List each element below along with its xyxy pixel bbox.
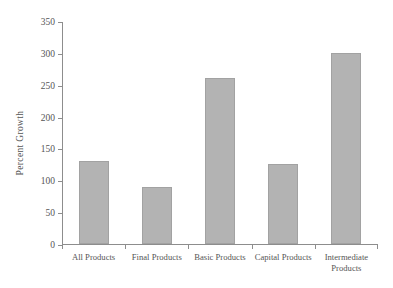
x-axis-tick: [377, 245, 378, 249]
y-axis-tick-label: 350: [41, 17, 55, 27]
plot-area: 050100150200250300350 All ProductsFinal …: [62, 22, 378, 245]
y-axis-tick: [58, 213, 62, 214]
x-axis-tick: [252, 245, 253, 249]
bar: [205, 78, 235, 244]
bar: [79, 161, 109, 244]
x-axis-label: All Products: [58, 252, 130, 263]
x-axis-line: [62, 244, 378, 245]
x-axis-tick: [62, 245, 63, 249]
bar: [268, 164, 298, 244]
x-axis-tick: [188, 245, 189, 249]
bar: [142, 187, 172, 244]
y-axis-tick: [58, 149, 62, 150]
y-axis-title: Percent Growth: [12, 88, 28, 198]
x-axis-label: Intermediate Products: [310, 252, 382, 274]
x-axis-tick: [125, 245, 126, 249]
y-axis-tick: [58, 22, 62, 23]
x-axis-tick: [315, 245, 316, 249]
y-axis-tick: [58, 181, 62, 182]
y-axis-title-label: Percent Growth: [15, 111, 25, 176]
y-axis-tick: [58, 54, 62, 55]
y-axis-tick: [58, 86, 62, 87]
y-axis-line: [62, 22, 63, 245]
x-axis-label: Final Products: [121, 252, 193, 263]
x-axis-label: Basic Products: [184, 252, 256, 263]
y-axis-tick-label: 0: [50, 240, 55, 250]
y-axis-tick: [58, 118, 62, 119]
bar-chart-figure: Percent Growth 050100150200250300350 All…: [0, 0, 393, 288]
y-axis-tick-label: 200: [41, 113, 55, 123]
bar: [331, 53, 361, 244]
x-axis-label: Capital Products: [247, 252, 319, 263]
y-axis-tick-label: 150: [41, 144, 55, 154]
y-axis-tick-label: 300: [41, 49, 55, 59]
y-axis-tick-label: 50: [46, 208, 56, 218]
y-axis-tick-label: 250: [41, 81, 55, 91]
y-axis-tick-label: 100: [41, 176, 55, 186]
